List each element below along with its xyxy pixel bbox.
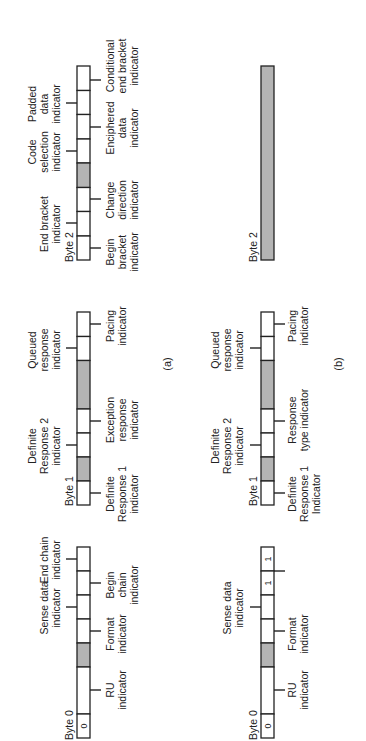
label-end-chain-1: End chain xyxy=(38,536,50,583)
sna-request-response-header-diagram: Byte 2 End bracket indicator Code select… xyxy=(0,0,366,741)
label-pacing-2: indicator xyxy=(116,306,128,346)
label-definite-response-2-1: Definite xyxy=(26,428,38,464)
label-format-1: Format xyxy=(286,617,298,650)
bit-cell xyxy=(261,312,274,337)
bit-cell xyxy=(261,433,274,457)
panel-a-byte-1: Byte 1 Definite Response 2 indicator Que… xyxy=(26,306,140,522)
bit-cell xyxy=(77,66,90,91)
bit-cell-reserved xyxy=(77,643,90,667)
bit-cell xyxy=(77,236,90,260)
label-pacing-2: indicator xyxy=(298,306,310,346)
bit-cell xyxy=(77,139,90,163)
label-code-selection-2: selection xyxy=(38,131,50,173)
label-padded-data-2: data xyxy=(38,94,50,115)
label-queued-response-3: indicator xyxy=(50,330,62,370)
label-conditional-end-bracket-2: end bracket xyxy=(116,38,128,93)
label-sense-data-2: indicator xyxy=(233,588,245,628)
bit-cell-reserved xyxy=(77,163,90,188)
panel-b-caption: (b) xyxy=(332,357,344,370)
panel-b-byte-1: Byte 1 Definite Response 2 indicator Que… xyxy=(209,306,322,522)
bit-cell xyxy=(261,481,274,505)
label-ru-1: RU xyxy=(104,682,116,697)
bit-cell xyxy=(77,619,90,643)
label-begin-bracket-3: indicator xyxy=(128,232,140,272)
label-definite-response-1-1: Definite xyxy=(104,476,116,512)
panel-a: Byte 2 End bracket indicator Code select… xyxy=(26,38,173,740)
bit-cell xyxy=(77,409,90,433)
label-exception-response-1: Exception xyxy=(104,397,116,443)
bit-cell xyxy=(77,547,90,571)
label-enciphered-data-3: indicator xyxy=(128,108,140,148)
bit-cell-reserved xyxy=(261,643,274,667)
bit-cell xyxy=(77,188,90,212)
bit-cell xyxy=(77,595,90,619)
label-definite-response-1-2: Response 1 xyxy=(298,466,310,522)
byte-label: Byte 2 xyxy=(63,232,75,262)
byte-2-reserved-block xyxy=(261,66,274,260)
label-definite-response-2-3: indicator xyxy=(233,426,245,466)
bit-value: 0 xyxy=(79,723,89,728)
byte-label: Byte 0 xyxy=(247,710,259,740)
label-definite-response-1-3: indicator xyxy=(128,474,140,514)
label-end-bracket-1: End bracket xyxy=(38,196,50,252)
label-conditional-end-bracket-1: Conditional xyxy=(104,40,116,93)
label-padded-data-1: Padded xyxy=(26,86,38,122)
panel-b: Byte 2 Byte 1 Definite Response 2 indica… xyxy=(209,66,344,740)
label-definite-response-2-2: Response 2 xyxy=(221,418,233,474)
bit-value: 0 xyxy=(263,723,273,728)
byte-label: Byte 1 xyxy=(63,476,75,506)
bit-value: 1 xyxy=(263,580,273,585)
bit-cell xyxy=(77,481,90,505)
bit-cell-reserved xyxy=(77,361,90,410)
label-padded-data-3: indicator xyxy=(50,84,62,124)
bit-cell xyxy=(77,571,90,595)
label-sense-data-1: Sense data xyxy=(38,581,50,634)
label-pacing-1: Pacing xyxy=(104,310,116,342)
label-code-selection-3: indicator xyxy=(50,132,62,172)
panel-b-byte-2: Byte 2 xyxy=(247,66,274,262)
byte-label: Byte 0 xyxy=(63,710,75,740)
bit-value: 1 xyxy=(263,556,273,561)
label-ru-2: indicator xyxy=(298,670,310,710)
label-response-type-2: type indicator xyxy=(298,388,310,451)
label-pacing-1: Pacing xyxy=(286,310,298,342)
bit-cell xyxy=(261,667,274,714)
bit-cell xyxy=(261,337,274,361)
label-ru-1: RU xyxy=(286,682,298,697)
label-enciphered-data-1: Enciphered xyxy=(104,101,116,154)
label-end-bracket-2: indicator xyxy=(50,204,62,244)
label-queued-response-1: Queued xyxy=(26,331,38,369)
label-change-direction-3: indicator xyxy=(128,180,140,220)
byte-label: Byte 1 xyxy=(247,476,259,506)
label-format-2: indicator xyxy=(298,614,310,654)
bit-cell xyxy=(77,91,90,115)
bit-cell xyxy=(77,337,90,361)
bit-cell xyxy=(77,312,90,337)
bit-cell xyxy=(261,619,274,643)
bit-cell xyxy=(261,595,274,619)
label-begin-chain-3: indicator xyxy=(128,565,140,605)
label-exception-response-3: indicator xyxy=(128,400,140,440)
label-conditional-end-bracket-3: indicator xyxy=(128,46,140,86)
byte-label: Byte 2 xyxy=(247,232,259,262)
label-enciphered-data-2: data xyxy=(116,118,128,139)
label-queued-response-2: response xyxy=(38,328,50,371)
label-format-2: indicator xyxy=(116,614,128,654)
label-definite-response-2-3: indicator xyxy=(50,426,62,466)
bit-cell xyxy=(77,433,90,457)
panel-a-caption: (a) xyxy=(161,357,173,370)
label-change-direction-1: Change xyxy=(104,181,116,218)
bit-cell xyxy=(77,212,90,237)
label-end-chain-2: indicator xyxy=(50,540,62,580)
bit-cell-reserved xyxy=(261,361,274,410)
label-begin-bracket-1: Begin xyxy=(104,238,116,265)
label-ru-2: indicator xyxy=(116,670,128,710)
bit-cell-reserved xyxy=(77,457,90,481)
label-exception-response-2: response xyxy=(116,398,128,441)
panel-a-byte-0: 0 Byte 0 Sense data indicator End chain … xyxy=(38,536,140,740)
panel-a-byte-2: Byte 2 End bracket indicator Code select… xyxy=(26,38,140,271)
label-change-direction-2: direction xyxy=(116,180,128,220)
bit-cell-reserved xyxy=(261,457,274,481)
label-definite-response-1-3: Indicator xyxy=(310,473,322,514)
label-definite-response-1-1: Definite xyxy=(286,476,298,512)
